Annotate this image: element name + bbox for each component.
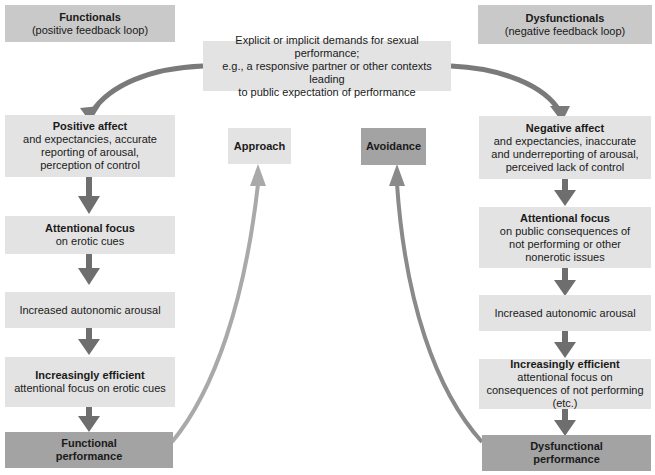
autonomic-arousal-right-box: Increased autonomic arousal xyxy=(479,295,651,331)
demands-line2: e.g., a responsive partner or other cont… xyxy=(203,60,451,86)
box-body: Increased autonomic arousal xyxy=(494,307,635,320)
box-title: Negative affect xyxy=(526,122,604,135)
dysfunctionals-header: Dysfunctionals (negative feedback loop) xyxy=(478,5,652,44)
box-body: and expectancies, inaccurate and underre… xyxy=(479,135,651,174)
dysfunctionals-title: Dysfunctionals xyxy=(526,12,605,25)
efficient-focus-left-box: Increasingly efficient attentional focus… xyxy=(5,357,175,407)
demands-line3: to public expectation of performance xyxy=(238,86,415,99)
avoidance-arc-icon xyxy=(397,184,482,442)
box-body: Increased autonomic arousal xyxy=(19,304,160,317)
functional-performance-box: Functional performance xyxy=(5,432,173,468)
approach-label: Approach xyxy=(234,140,285,153)
functionals-title: Functionals xyxy=(59,11,121,24)
box-title: Attentional focus xyxy=(520,212,610,225)
box-body: and expectancies, accurate reporting of … xyxy=(5,133,175,172)
approach-box: Approach xyxy=(228,128,291,164)
box-title: Increasingly efficient xyxy=(510,358,619,371)
box-title: Positive affect xyxy=(53,120,128,133)
avoidance-box: Avoidance xyxy=(361,128,426,165)
attentional-focus-left-box: Attentional focus on erotic cues xyxy=(5,216,175,254)
functionals-subtitle: (positive feedback loop) xyxy=(32,24,148,37)
dysfunctionals-subtitle: (negative feedback loop) xyxy=(505,25,625,38)
positive-affect-box: Positive affect and expectancies, accura… xyxy=(5,115,175,177)
efficient-focus-right-box: Increasingly efficient attentional focus… xyxy=(479,359,651,409)
box-body: attentional focus on consequences of not… xyxy=(479,371,651,410)
box-body: on erotic cues xyxy=(56,235,124,248)
box-body: on public consequences of not performing… xyxy=(479,225,651,264)
box-title: Attentional focus xyxy=(45,222,135,235)
box-title: Functional performance xyxy=(5,437,173,463)
dysfunctional-performance-box: Dysfunctional performance xyxy=(482,435,651,471)
attentional-focus-right-box: Attentional focus on public consequences… xyxy=(479,207,651,268)
functionals-header: Functionals (positive feedback loop) xyxy=(5,5,175,42)
demands-line1: Explicit or implicit demands for sexual … xyxy=(203,34,451,60)
avoidance-label: Avoidance xyxy=(366,140,421,153)
negative-affect-box: Negative affect and expectancies, inaccu… xyxy=(479,116,651,179)
demands-box: Explicit or implicit demands for sexual … xyxy=(203,41,451,91)
approach-arc-icon xyxy=(172,184,258,442)
curve-arrow-left-icon xyxy=(92,66,203,112)
autonomic-arousal-left-box: Increased autonomic arousal xyxy=(5,292,175,328)
box-body: attentional focus on erotic cues xyxy=(14,382,166,395)
box-title: Increasingly efficient xyxy=(35,369,144,382)
box-title: Dysfunctional performance xyxy=(482,440,651,466)
curve-arrow-right-icon xyxy=(451,66,560,112)
